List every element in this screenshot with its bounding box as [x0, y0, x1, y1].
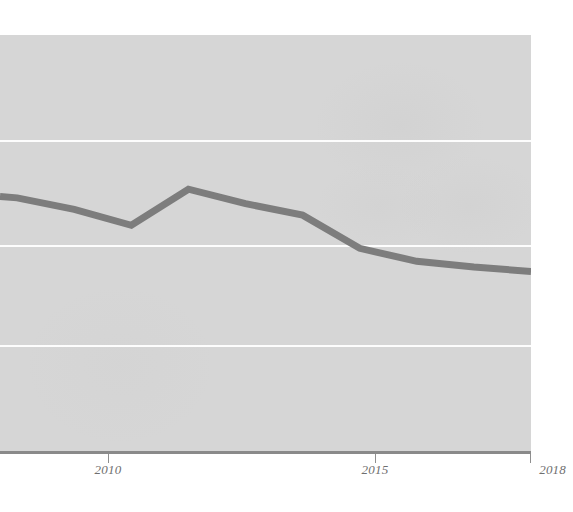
- x-tick-label-2010: 2010: [95, 462, 122, 478]
- x-axis-line: [0, 451, 531, 454]
- line-chart: 2010 2015 2018: [0, 0, 573, 512]
- series-line-group: [0, 35, 531, 453]
- plot-area: [0, 35, 531, 453]
- x-tick-label-2018: 2018: [539, 462, 566, 478]
- x-tick-mark-2018: [530, 454, 531, 463]
- series-line-1: [0, 189, 531, 271]
- x-tick-label-2015: 2015: [362, 462, 389, 478]
